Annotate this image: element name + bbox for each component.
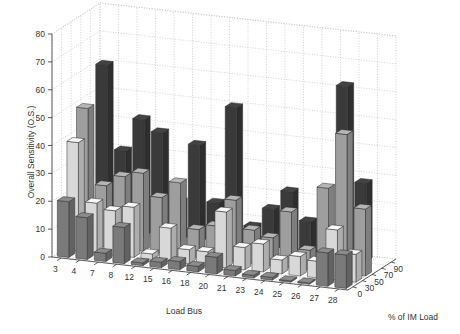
x-tick-label: 4	[71, 266, 76, 276]
bar	[335, 250, 352, 289]
x-tick-label: 8	[108, 270, 113, 280]
bar	[233, 242, 250, 269]
x-tick-label: 21	[217, 283, 227, 293]
x-tick-label: 27	[310, 293, 320, 303]
x-tick-label: 25	[273, 289, 283, 299]
bar	[113, 222, 130, 263]
y-tick-label: 30	[365, 283, 375, 293]
bar	[159, 223, 176, 262]
x-tick-label: 23	[236, 285, 246, 295]
x-tick-label: 12	[125, 272, 135, 282]
x-tick-label: 24	[254, 287, 264, 297]
z-tick-label: 10	[36, 224, 46, 234]
bar	[289, 251, 306, 276]
x-tick-label: 28	[328, 295, 338, 305]
z-tick-label: 50	[36, 113, 46, 123]
x-tick-label: 18	[180, 278, 190, 288]
bar-chart-3d: 0102030405060708034781215161820212324252…	[0, 0, 460, 334]
bar	[76, 213, 93, 260]
z-axis-label: Overall Sensitivity (O.S.)	[26, 106, 36, 199]
x-axis-label: Load Bus	[166, 306, 202, 316]
x-tick-label: 26	[291, 291, 301, 301]
bar	[242, 270, 259, 278]
bar	[252, 239, 269, 272]
z-tick-label: 40	[36, 141, 46, 151]
x-tick-label: 15	[143, 274, 153, 284]
z-tick-label: 20	[36, 196, 46, 206]
y-axis-label: % of IM Load	[388, 312, 438, 322]
x-tick-label: 3	[53, 264, 58, 274]
x-tick-label: 16	[162, 276, 172, 286]
z-tick-label: 30	[36, 168, 46, 178]
z-tick-label: 70	[36, 57, 46, 67]
bar	[298, 278, 315, 285]
x-tick-label: 7	[90, 268, 95, 278]
bar	[94, 248, 111, 261]
bar	[57, 197, 74, 258]
x-tick-label: 20	[199, 281, 209, 291]
y-tick-label: 70	[384, 270, 394, 280]
bar	[168, 256, 185, 269]
y-tick-label: 50	[374, 277, 384, 287]
y-tick-label: 0	[357, 289, 362, 299]
y-tick-label: 90	[393, 264, 403, 274]
z-tick-label: 60	[36, 85, 46, 95]
bar	[316, 248, 333, 287]
bar	[205, 252, 222, 274]
z-tick-label: 80	[36, 29, 46, 39]
bar	[270, 255, 287, 274]
z-tick-label: 0	[40, 252, 45, 262]
bars	[57, 60, 372, 288]
bar	[279, 276, 296, 283]
